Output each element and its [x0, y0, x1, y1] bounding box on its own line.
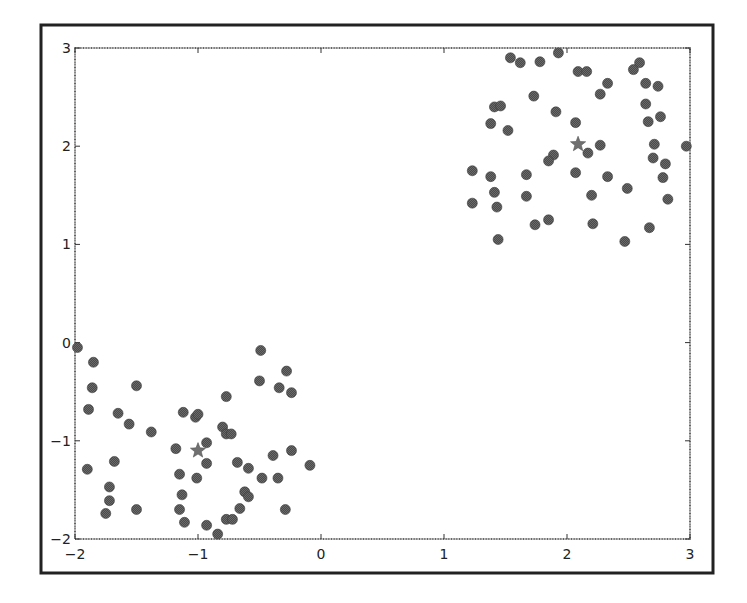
data-point [521, 170, 531, 180]
data-point [113, 408, 123, 418]
data-point [82, 464, 92, 474]
data-point [681, 141, 691, 151]
y-tick-label: 3 [62, 40, 71, 56]
data-point [243, 492, 253, 502]
data-point [603, 172, 613, 182]
x-tick-label: 0 [317, 546, 326, 562]
data-point [658, 173, 668, 183]
data-point [177, 490, 187, 500]
data-point [467, 166, 477, 176]
data-point [109, 456, 119, 466]
data-point [648, 153, 658, 163]
y-tick-label: −2 [50, 531, 71, 547]
data-point [232, 457, 242, 467]
data-point [486, 172, 496, 182]
plot-area: −2−10123 −2−10123 [50, 40, 694, 562]
y-tick-label: 2 [62, 138, 71, 154]
data-point [493, 234, 503, 244]
data-point [146, 427, 156, 437]
data-point [87, 383, 97, 393]
data-point [202, 438, 212, 448]
data-point [132, 505, 142, 515]
data-point [179, 517, 189, 527]
x-tick-label: 2 [563, 546, 572, 562]
data-point [628, 65, 638, 75]
data-point [641, 99, 651, 109]
data-point [622, 183, 632, 193]
data-point [101, 508, 111, 518]
data-point [492, 202, 502, 212]
data-point [529, 91, 539, 101]
data-point [193, 409, 203, 419]
data-point [227, 514, 237, 524]
data-point [280, 505, 290, 515]
data-point [641, 78, 651, 88]
data-point [178, 407, 188, 417]
data-point [583, 148, 593, 158]
data-point [660, 159, 670, 169]
data-point [104, 496, 114, 506]
y-tick-label: 0 [62, 335, 71, 351]
data-point [171, 444, 181, 454]
data-point [544, 215, 554, 225]
data-point [255, 376, 265, 386]
data-point [649, 139, 659, 149]
data-point [515, 58, 525, 68]
data-point [132, 381, 142, 391]
data-point [202, 458, 212, 468]
data-point [595, 140, 605, 150]
data-point [256, 345, 266, 355]
data-point [274, 383, 284, 393]
data-point [521, 191, 531, 201]
data-point [530, 220, 540, 230]
data-point [273, 473, 283, 483]
data-point [595, 89, 605, 99]
data-point [243, 463, 253, 473]
data-point [620, 236, 630, 246]
x-tick-label: 1 [440, 546, 449, 562]
data-point [192, 473, 202, 483]
data-point [235, 504, 245, 514]
data-point [582, 67, 592, 77]
data-point [84, 404, 94, 414]
data-point [467, 198, 477, 208]
data-point [202, 520, 212, 530]
data-point [505, 53, 515, 63]
data-point [588, 219, 598, 229]
data-point [571, 168, 581, 178]
data-point [643, 117, 653, 127]
data-point [286, 446, 296, 456]
x-tick-label: −2 [65, 546, 86, 562]
data-point [653, 81, 663, 91]
scatter-figure: −2−10123 −2−10123 [0, 0, 747, 603]
data-point [88, 357, 98, 367]
data-point [535, 57, 545, 67]
data-point [571, 118, 581, 128]
data-point [603, 78, 613, 88]
data-point [644, 223, 654, 233]
data-point [226, 429, 236, 439]
data-point [544, 156, 554, 166]
data-point [268, 451, 278, 461]
data-point [503, 125, 513, 135]
y-tick-label: −1 [50, 433, 71, 449]
x-tick-label: 3 [686, 546, 695, 562]
data-point [553, 48, 563, 58]
data-point [663, 194, 673, 204]
axes-box [75, 48, 690, 539]
data-point [104, 482, 114, 492]
data-point [496, 101, 506, 111]
data-point [305, 460, 315, 470]
data-point [124, 419, 134, 429]
data-point [489, 187, 499, 197]
data-point [655, 112, 665, 122]
data-point [72, 343, 82, 353]
data-point [486, 119, 496, 129]
data-point [213, 529, 223, 539]
data-point [587, 190, 597, 200]
data-point [282, 366, 292, 376]
data-point [551, 107, 561, 117]
y-tick-label: 1 [62, 236, 71, 252]
data-point [175, 469, 185, 479]
data-point [221, 392, 231, 402]
